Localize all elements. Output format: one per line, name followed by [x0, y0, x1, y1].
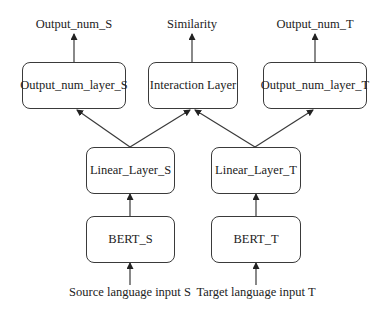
interaction-layer-text: Interaction Layer [150, 78, 236, 93]
output-num-layer-s-text: Output_num_layer_S [20, 78, 128, 93]
edge-linear-t-to-interaction [195, 110, 255, 147]
output-num-s-label: Output_num_S [36, 17, 112, 32]
output-num-layer-t-node: Output_num_layer_T [263, 62, 367, 109]
output-num-layer-s-node: Output_num_layer_S [22, 62, 126, 109]
linear-layer-s-text: Linear_Layer_S [90, 163, 171, 178]
interaction-layer-node: Interaction Layer [148, 62, 238, 109]
linear-layer-t-node: Linear_Layer_T [211, 147, 301, 194]
linear-layer-s-node: Linear_Layer_S [86, 147, 175, 194]
architecture-diagram: Output_num_S Similarity Output_num_T Out… [0, 0, 385, 315]
output-num-t-label: Output_num_T [276, 17, 353, 32]
bert-s-text: BERT_S [108, 232, 152, 247]
target-input-label: Target language input T [196, 285, 315, 300]
linear-layer-t-text: Linear_Layer_T [215, 163, 297, 178]
edge-linear-s-to-interaction [130, 110, 190, 147]
edges-layer [0, 0, 385, 315]
bert-t-text: BERT_T [233, 232, 278, 247]
output-num-layer-t-text: Output_num_layer_T [261, 78, 369, 93]
edge-linear-t-to-output-layer-t [255, 110, 313, 147]
source-input-label: Source language input S [69, 285, 191, 300]
edge-linear-s-to-output-layer-s [77, 110, 130, 147]
bert-s-node: BERT_S [86, 216, 175, 263]
similarity-label: Similarity [167, 17, 217, 32]
bert-t-node: BERT_T [211, 216, 301, 263]
